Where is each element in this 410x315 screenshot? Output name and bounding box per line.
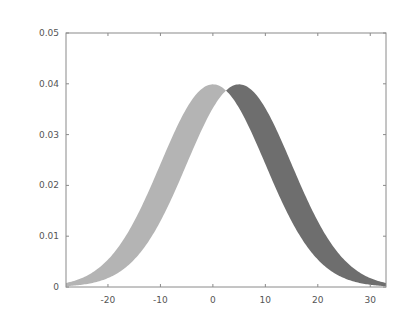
x-tick-label: 10 — [260, 295, 272, 305]
y-tick-label: 0.03 — [39, 130, 59, 140]
y-tick-label: 0.02 — [39, 180, 59, 190]
plot-frame — [66, 33, 386, 287]
y-tick-label: 0 — [53, 282, 59, 292]
x-tick-label: -20 — [101, 295, 116, 305]
y-tick-label: 0.01 — [39, 231, 59, 241]
x-tick-label: 0 — [210, 295, 216, 305]
x-tick-label: 20 — [312, 295, 324, 305]
y-tick-label: 0.05 — [39, 28, 59, 38]
x-tick-label: 30 — [365, 295, 377, 305]
left-band — [66, 84, 226, 286]
y-tick-label: 0.04 — [39, 79, 59, 89]
chart: -20-100102030 00.010.020.030.040.05 — [0, 0, 410, 315]
right-band — [226, 84, 386, 286]
density-bands — [66, 84, 386, 286]
x-tick-label: -10 — [153, 295, 168, 305]
